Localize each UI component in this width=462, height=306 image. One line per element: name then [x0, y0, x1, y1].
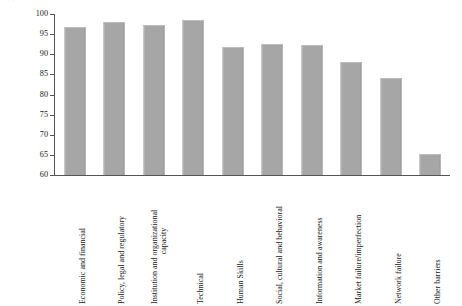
- y-tick-mark: [50, 95, 54, 96]
- bar-slot: [134, 14, 174, 175]
- bar[interactable]: [341, 62, 362, 175]
- category-label: Social, cultural and behavioral: [275, 206, 284, 304]
- bars-layer: [55, 14, 450, 175]
- bar-slot: [55, 14, 95, 175]
- bar[interactable]: [222, 47, 243, 175]
- category-label: Human Skills: [236, 260, 245, 304]
- bar-chart: Percentage of all parties 10095908580757…: [0, 0, 462, 306]
- bar[interactable]: [183, 20, 204, 175]
- y-tick-label: 75: [18, 109, 48, 120]
- bar[interactable]: [301, 45, 322, 175]
- y-tick-label: 60: [18, 169, 48, 180]
- y-tick-label: 100: [18, 8, 48, 19]
- category-label: Other barriers: [433, 259, 442, 304]
- bar[interactable]: [104, 22, 125, 175]
- y-tick-mark: [50, 135, 54, 136]
- bar[interactable]: [143, 25, 164, 175]
- bar[interactable]: [64, 27, 85, 175]
- bar-slot: [292, 14, 332, 175]
- y-tick-mark: [50, 155, 54, 156]
- y-tick-label: 65: [18, 149, 48, 160]
- category-label: Technical: [196, 273, 205, 304]
- plot-area: 1009590858075706560: [54, 14, 450, 176]
- y-tick-label: 95: [18, 28, 48, 39]
- bar[interactable]: [380, 78, 401, 175]
- bar-slot: [95, 14, 135, 175]
- y-tick-mark: [50, 115, 54, 116]
- category-label-line2: capacity: [159, 178, 168, 304]
- bar-slot: [174, 14, 214, 175]
- bar-slot: [332, 14, 372, 175]
- category-label: Economic and financial: [78, 228, 87, 304]
- category-label: Institution and organizationalcapacity: [150, 178, 168, 304]
- category-label: Market failure/imperfection: [354, 215, 363, 304]
- y-tick-mark: [50, 34, 54, 35]
- y-tick-mark: [50, 14, 54, 15]
- bar-slot: [411, 14, 451, 175]
- category-label: Network failure: [394, 253, 403, 304]
- category-label-line1: Institution and organizational: [150, 210, 159, 304]
- y-tick-60: 60: [54, 175, 58, 176]
- x-axis-category-labels: Economic and financialPolicy, legal and …: [55, 178, 450, 306]
- y-tick-mark: [50, 175, 54, 176]
- y-tick-label: 85: [18, 68, 48, 79]
- category-label: Information and awareness: [315, 217, 324, 304]
- x-axis-line: [54, 175, 450, 176]
- y-tick-mark: [50, 54, 54, 55]
- bar[interactable]: [420, 154, 441, 175]
- y-tick-mark: [50, 74, 54, 75]
- y-tick-label: 90: [18, 48, 48, 59]
- bar-slot: [213, 14, 253, 175]
- bar-slot: [253, 14, 293, 175]
- category-label: Policy, legal and regulatory: [117, 216, 126, 304]
- bar-slot: [371, 14, 411, 175]
- bar[interactable]: [262, 44, 283, 175]
- y-tick-label: 80: [18, 89, 48, 100]
- y-tick-label: 70: [18, 129, 48, 140]
